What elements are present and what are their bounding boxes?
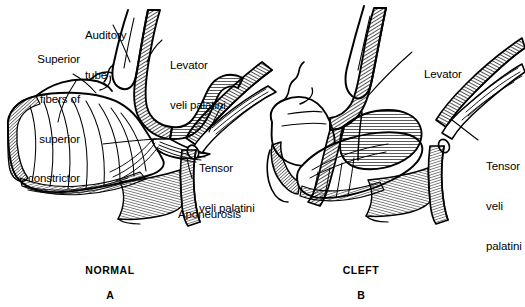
label-tensor-veli-palatini-b-line1: Tensor xyxy=(486,160,525,173)
label-aponeurosis: Aponeurosis xyxy=(178,182,260,248)
label-auditory-tube-line1: Auditory xyxy=(85,29,149,42)
label-tensor-veli-palatini-b: Tensor veli palatini xyxy=(486,134,525,279)
panel-b-letter: B xyxy=(343,289,379,301)
panel-a-caption: NORMAL xyxy=(78,264,142,276)
label-levator-veli-palatini-line2: veli palatini xyxy=(170,99,252,112)
label-tensor-veli-palatini-b-line2: veli xyxy=(486,200,525,213)
label-levator-veli-palatini-line1: Levator xyxy=(170,59,252,72)
label-tensor-veli-palatini-b-line3: palatini xyxy=(486,240,525,253)
label-superior-constrictor-line1: Superior xyxy=(8,53,80,66)
label-auditory-tube: Auditory tube xyxy=(85,3,149,109)
label-aponeurosis-line1: Aponeurosis xyxy=(178,208,260,221)
label-superior-constrictor-line4: constrictor xyxy=(8,172,80,185)
label-levator-b-line1: Levator xyxy=(424,68,486,81)
anatomical-figure: Superior fibers of superior constrictor … xyxy=(0,0,525,307)
panel-a-letter: A xyxy=(92,289,128,301)
label-levator-veli-palatini: Levator veli palatini xyxy=(170,33,252,139)
label-levator-b: Levator xyxy=(424,42,486,108)
label-superior-constrictor-line3: superior xyxy=(8,133,80,146)
label-tensor-veli-palatini-a-line1: Tensor xyxy=(199,162,283,175)
label-auditory-tube-line2: tube xyxy=(85,69,149,82)
panel-b-caption: CLEFT xyxy=(330,264,392,276)
label-superior-constrictor-line2: fibers of xyxy=(8,93,80,106)
label-superior-constrictor: Superior fibers of superior constrictor xyxy=(8,27,80,212)
